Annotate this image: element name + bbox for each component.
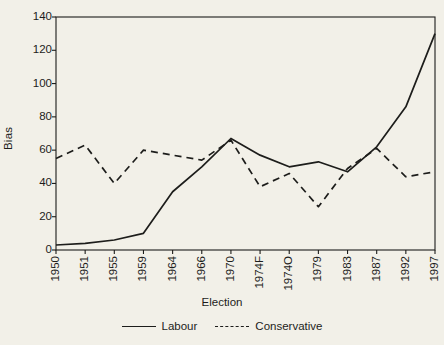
x-tick-label: 1997 — [429, 256, 441, 282]
x-tick-label: 1970 — [225, 256, 237, 282]
x-axis-title: Election — [0, 296, 444, 308]
x-tick-label: 1974F — [254, 256, 266, 289]
chart-legend: LabourConservative — [0, 320, 444, 332]
x-tick-label: 1950 — [50, 256, 62, 282]
x-tick-label: 1992 — [400, 256, 412, 282]
x-axis-tick-labels: 19501951195519591964196619701974F1974O19… — [0, 0, 444, 345]
legend-entry-labour: Labour — [122, 320, 198, 332]
legend-label: Conservative — [255, 320, 322, 332]
legend-swatch-labour — [122, 326, 156, 327]
x-tick-label: 1987 — [371, 256, 383, 282]
bias-by-election-line-chart: Bias 020406080100120140 1950195119551959… — [0, 0, 444, 345]
legend-label: Labour — [162, 320, 198, 332]
x-tick-label: 1983 — [342, 256, 354, 282]
legend-entry-conservative: Conservative — [215, 320, 322, 332]
x-tick-label: 1955 — [108, 256, 120, 282]
x-tick-label: 1959 — [137, 256, 149, 282]
x-tick-label: 1964 — [167, 256, 179, 282]
x-tick-label: 1979 — [312, 256, 324, 282]
x-tick-label: 1951 — [79, 256, 91, 282]
x-tick-label: 1974O — [283, 256, 295, 291]
legend-swatch-conservative — [215, 326, 249, 327]
x-tick-label: 1966 — [196, 256, 208, 282]
